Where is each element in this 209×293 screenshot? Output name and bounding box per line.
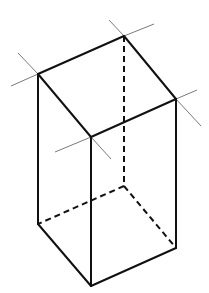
- hidden-edges: [38, 36, 176, 248]
- top-right-to-top-front-edge: [91, 99, 176, 137]
- top-left-ext-down-construction-line: [11, 74, 38, 86]
- top-front-ext-left-construction-line: [55, 137, 91, 152]
- visible-edges: [38, 36, 176, 286]
- top-front-ext-right-construction-line: [91, 137, 111, 159]
- top-right-ext-down-construction-line: [176, 99, 201, 126]
- top-back-ext-left-construction-line: [109, 20, 124, 36]
- top-right-ext-up-construction-line: [176, 90, 197, 99]
- top-left-to-top-back-edge: [38, 36, 124, 74]
- bottom-left-to-bottom-front-edge: [38, 224, 91, 286]
- top-front-to-top-left-edge: [38, 74, 91, 137]
- bottom-front-to-bottom-right-edge: [91, 248, 176, 286]
- construction-lines: [11, 20, 201, 159]
- bottom-back-to-bottom-left-hidden-edge: [38, 186, 124, 224]
- top-back-ext-right-construction-line: [124, 24, 154, 36]
- bottom-back-to-bottom-right-hidden-edge: [124, 186, 176, 248]
- top-back-to-top-right-edge: [124, 36, 176, 99]
- top-left-ext-up-construction-line: [18, 53, 38, 74]
- cuboid-diagram: [0, 0, 209, 293]
